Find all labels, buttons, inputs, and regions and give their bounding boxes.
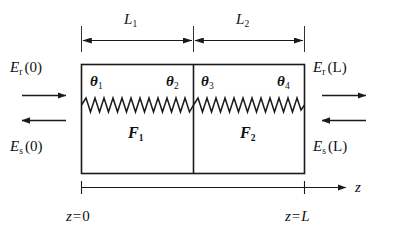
label-theta-1: θ1 [90, 74, 103, 92]
schematic-vector-layer [0, 0, 394, 239]
dimension-extension-lines [82, 26, 305, 52]
label-field-Er-0: Er(0) [10, 60, 42, 78]
label-field-Er-L: Er(L) [313, 60, 347, 78]
label-layer-F2: F2 [240, 125, 256, 144]
rough-interface-zigzag-layer2 [194, 98, 305, 112]
rough-interface-zigzag-layer1 [82, 98, 194, 112]
label-theta-2: θ2 [166, 74, 179, 92]
label-L1: L1 [124, 12, 137, 30]
label-axis-z: z [355, 180, 361, 195]
label-theta-3: θ3 [201, 74, 214, 92]
label-z-end: z=L [285, 209, 310, 224]
label-layer-F1: F1 [128, 125, 144, 144]
figure-canvas: L1 L2 Er(0) Es(0) Er(L) Es(L) θ1 θ2 θ3 θ… [0, 0, 394, 239]
label-field-Es-L: Es(L) [313, 139, 347, 157]
label-L2: L2 [236, 12, 249, 30]
label-field-Es-0: Es(0) [10, 139, 43, 157]
label-z-origin: z=0 [66, 209, 90, 224]
label-theta-4: θ4 [277, 74, 290, 92]
